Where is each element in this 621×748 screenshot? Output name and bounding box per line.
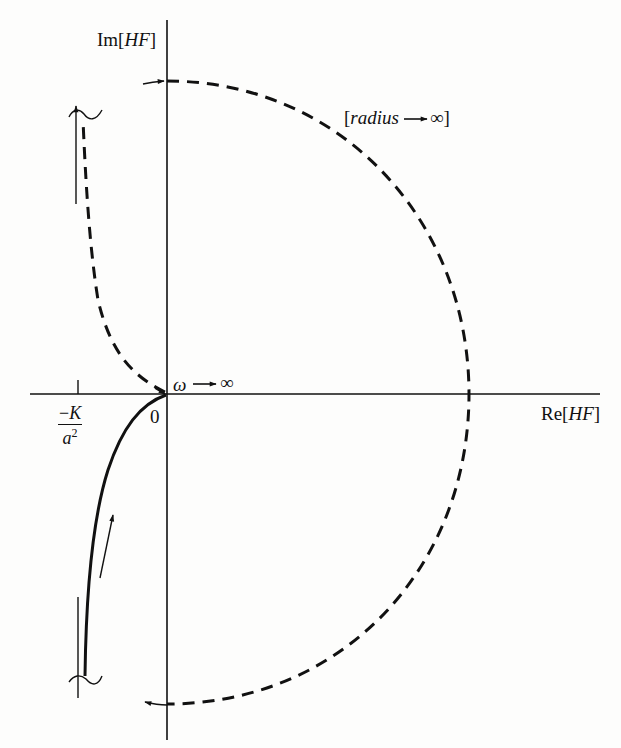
numerator-k: K [69, 403, 81, 423]
real-axis-label: Re[HF] [541, 404, 600, 423]
critical-point-numerator: −K [58, 404, 82, 425]
origin-label: 0 [150, 407, 160, 426]
critical-point-denominator: a2 [58, 425, 82, 447]
critical-point-label: −K a2 [58, 404, 82, 447]
radius-close-bracket: ] [444, 107, 450, 128]
imag-label-suffix: ] [150, 29, 156, 50]
omega-limit-label: ω [173, 375, 186, 394]
real-label-prefix: Re[ [541, 403, 568, 424]
infinite-radius-arc [167, 81, 469, 704]
radius-limit-label: ∞] [430, 108, 450, 127]
top-break-tilde-icon [69, 110, 102, 119]
imag-label-var: HF [124, 29, 149, 50]
imaginary-axis-label: Im[HF] [97, 30, 156, 49]
bottom-break-tilde-icon [69, 676, 102, 684]
radius-label: [radius [344, 108, 399, 127]
nyquist-plot-graphics [0, 0, 621, 748]
denominator-exponent: 2 [72, 426, 78, 440]
real-label-suffix: ] [594, 403, 600, 424]
radius-word: radius [350, 107, 399, 128]
upward-direction-arrow-icon [100, 515, 113, 578]
positive-frequency-branch [85, 395, 166, 676]
negative-frequency-branch [83, 120, 165, 392]
imag-label-prefix: Im[ [97, 29, 124, 50]
real-label-var: HF [568, 403, 593, 424]
omega-infinity-symbol: ∞ [220, 373, 234, 392]
top-arc-arrow-icon [143, 81, 164, 84]
minus-sign: − [59, 403, 69, 423]
denominator-a: a [63, 428, 72, 448]
bottom-arc-arrow-icon [145, 702, 167, 705]
omega-symbol: ω [173, 374, 186, 395]
radius-infinity-symbol: ∞ [430, 107, 444, 128]
nyquist-diagram: Im[HF] Re[HF] 0 ω ∞ [radius ∞] −K a2 [0, 0, 621, 748]
